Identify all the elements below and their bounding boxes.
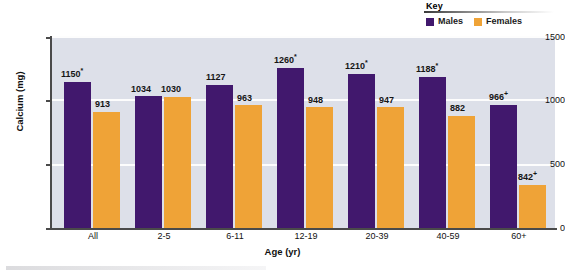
y-axis-line [50,36,52,229]
bar-females-40-59[interactable] [448,116,475,228]
value-label-females-40-59: 882 [450,104,465,113]
bar-males-2-5[interactable] [135,96,162,228]
bar-males-6-11[interactable] [206,85,233,229]
bar-group-40-59: 1188* 882 [417,37,479,228]
legend-item-males: Males [426,17,463,26]
legend-title: Key [424,1,556,11]
bar-males-40-59[interactable] [419,77,446,228]
x-tick-label-2-5: 2-5 [133,231,195,241]
bar-females-20-39[interactable] [377,107,404,228]
value-label-females-20-39: 947 [379,96,394,105]
page-bottom-artifact [6,266,266,270]
x-tick-label-all: All [62,231,124,241]
value-label-males-6-11: 1127 [206,73,226,82]
bar-chart-figure: Key Males Females Calcium (mg) 1500 1000… [0,0,565,271]
bar-group-6-11: 1127 963 [204,37,266,228]
legend-label-males: Males [438,17,463,26]
x-tick-label-60plus: 60+ [488,231,550,241]
legend-swatch-males-icon [426,18,434,26]
value-label-females-60plus: 842+ [518,169,537,182]
bar-females-2-5[interactable] [164,97,191,228]
bar-group-all: 1150* 913 [62,37,124,228]
bar-males-all[interactable] [64,82,91,228]
bar-males-20-39[interactable] [348,74,375,228]
bar-females-all[interactable] [93,112,120,228]
bar-group-20-39: 1210* 947 [346,37,408,228]
bar-group-2-5: 1034 1030 [133,37,195,228]
value-label-females-12-19: 948 [308,96,323,105]
bar-females-12-19[interactable] [306,107,333,228]
legend-item-females: Females [474,17,522,26]
value-label-females-all: 913 [95,100,110,109]
bar-group-60plus: 966+ 842+ [488,37,550,228]
bar-females-6-11[interactable] [235,105,262,228]
x-tick-label-40-59: 40-59 [417,231,479,241]
bar-groups: 1150* 913 1034 1030 1127 963 1260* 948 [52,37,555,228]
value-label-males-20-39: 1210* [345,58,368,71]
value-label-females-6-11: 963 [237,94,252,103]
value-label-males-60plus: 966+ [489,89,508,102]
legend-label-females: Females [486,17,522,26]
x-axis-line [50,228,557,230]
bar-females-60plus[interactable] [519,185,546,228]
legend-items: Males Females [424,17,556,26]
value-label-males-12-19: 1260* [274,52,297,65]
value-label-males-40-59: 1188* [416,61,438,74]
bar-males-12-19[interactable] [277,68,304,228]
y-axis-title: Calcium (mg) [14,57,25,147]
bar-group-12-19: 1260* 948 [275,37,337,228]
x-axis-title: Age (yr) [0,246,565,257]
value-label-females-2-5: 1030 [161,85,181,94]
x-tick-label-20-39: 20-39 [346,231,408,241]
value-label-males-all: 1150* [61,66,83,79]
value-label-males-2-5: 1034 [131,85,151,94]
chart-legend: Key Males Females [424,1,556,26]
legend-swatch-females-icon [474,18,482,26]
legend-title-underline [424,11,554,13]
x-tick-label-6-11: 6-11 [204,231,266,241]
bar-males-60plus[interactable] [490,105,517,228]
x-tick-label-12-19: 12-19 [275,231,337,241]
